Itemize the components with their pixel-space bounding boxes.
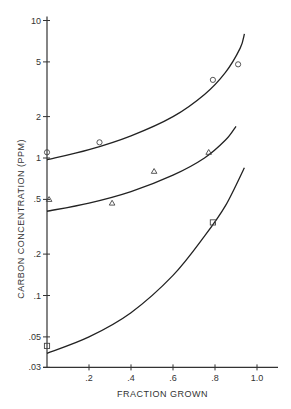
x-tick-label: 1.0 [251,373,264,383]
x-tick-label: .8 [211,373,219,383]
y-tick-label: .1 [33,291,41,301]
y-tick-label: .2 [33,249,41,259]
data-point-circle [210,77,215,82]
x-tick-label: .6 [169,373,177,383]
curve-triangles [47,126,236,211]
data-point-triangle [109,200,115,205]
curve-squares [47,168,244,354]
data-point-triangle [151,169,157,174]
y-tick-label: 10 [31,16,41,26]
x-axis-label: FRACTION GROWN [117,389,208,399]
y-axis-label: CARBON CONCENTRATION (PPM) [16,139,26,299]
x-tick-label: .4 [127,373,135,383]
y-tick-label: 5 [36,57,41,67]
x-tick-label: .2 [85,373,93,383]
y-tick-label: .05 [28,332,41,342]
y-tick-label: .03 [28,362,41,372]
y-tick-label: 1 [36,153,41,163]
chart: 10521.5.2.1.05.03.2.4.6.81.0FRACTION GRO… [0,0,291,409]
data-point-triangle [206,150,212,155]
curve-circles [47,34,244,160]
y-tick-label: .5 [33,194,41,204]
data-point-circle [97,140,102,145]
y-tick-label: 2 [36,112,41,122]
data-point-circle [236,62,241,67]
